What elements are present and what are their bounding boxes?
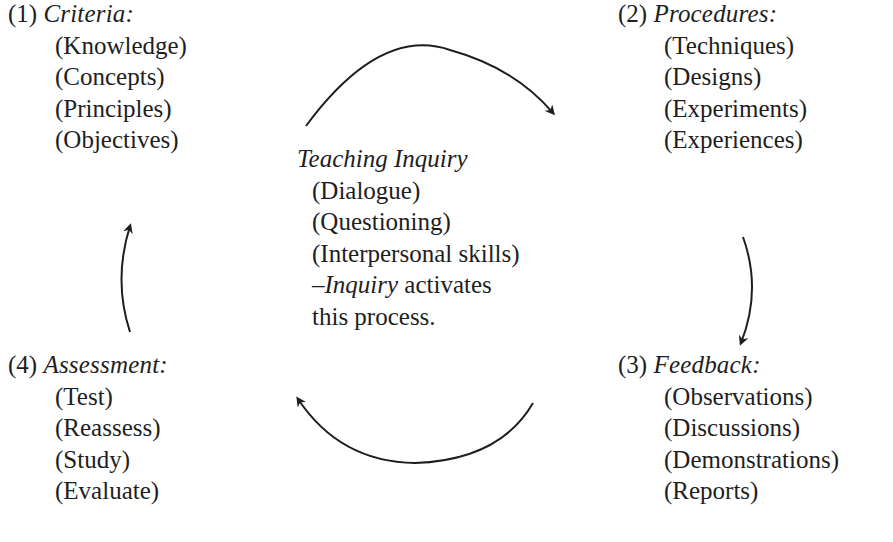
arrow-feedback-to-assessment	[298, 399, 533, 463]
note-rest: activates	[398, 271, 492, 298]
stage-number: (1)	[8, 0, 37, 27]
stage-label: Criteria:	[43, 0, 134, 27]
stage-item: (Discussions)	[664, 412, 839, 444]
arrow-assessment-to-criteria	[122, 226, 131, 332]
stage-item: (Objectives)	[55, 124, 187, 156]
center-items: (Dialogue) (Questioning) (Interpersonal …	[297, 175, 520, 270]
stage-item: (Concepts)	[55, 61, 187, 93]
stage-number: (3)	[618, 351, 647, 378]
stage-items: (Techniques) (Designs) (Experiments) (Ex…	[618, 30, 807, 156]
stage-number: (2)	[618, 0, 647, 27]
stage-items: (Test) (Reassess) (Study) (Evaluate)	[8, 381, 168, 507]
center-note-line1: –Inquiry activates	[297, 269, 520, 301]
stage-item: (Test)	[55, 381, 168, 413]
stage-assessment: (4) Assessment: (Test) (Reassess) (Study…	[8, 349, 168, 507]
center-note-line2: this process.	[297, 301, 520, 333]
stage-heading: (3) Feedback:	[618, 349, 839, 381]
stage-criteria: (1) Criteria: (Knowledge) (Concepts) (Pr…	[8, 0, 187, 156]
note-dash: –	[312, 271, 325, 298]
stage-label: Assessment:	[43, 351, 167, 378]
stage-number: (4)	[8, 351, 37, 378]
center-item: (Questioning)	[312, 206, 520, 238]
stage-item: (Knowledge)	[55, 30, 187, 62]
center-title: Teaching Inquiry	[297, 143, 520, 175]
note-emphasis: Inquiry	[325, 271, 399, 298]
stage-label: Procedures:	[653, 0, 777, 27]
stage-procedures: (2) Procedures: (Techniques) (Designs) (…	[618, 0, 807, 156]
stage-item: (Techniques)	[664, 30, 807, 62]
stage-heading: (2) Procedures:	[618, 0, 807, 30]
stage-item: (Principles)	[55, 93, 187, 125]
stage-items: (Observations) (Discussions) (Demonstrat…	[618, 381, 839, 507]
stage-item: (Reports)	[664, 475, 839, 507]
stage-item: (Experiments)	[664, 93, 807, 125]
center-teaching-inquiry: Teaching Inquiry (Dialogue) (Questioning…	[297, 143, 520, 332]
stage-heading: (4) Assessment:	[8, 349, 168, 381]
stage-item: (Experiences)	[664, 124, 807, 156]
stage-item: (Observations)	[664, 381, 839, 413]
center-item: (Interpersonal skills)	[312, 238, 520, 270]
stage-item: (Reassess)	[55, 412, 168, 444]
arrow-procedures-to-feedback	[741, 237, 752, 343]
stage-label: Feedback:	[653, 351, 760, 378]
stage-item: (Demonstrations)	[664, 444, 839, 476]
stage-item: (Evaluate)	[55, 475, 168, 507]
stage-heading: (1) Criteria:	[8, 0, 187, 30]
stage-feedback: (3) Feedback: (Observations) (Discussion…	[618, 349, 839, 507]
stage-items: (Knowledge) (Concepts) (Principles) (Obj…	[8, 30, 187, 156]
stage-item: (Study)	[55, 444, 168, 476]
stage-item: (Designs)	[664, 61, 807, 93]
center-item: (Dialogue)	[312, 175, 520, 207]
arrow-criteria-to-procedures	[306, 45, 553, 126]
